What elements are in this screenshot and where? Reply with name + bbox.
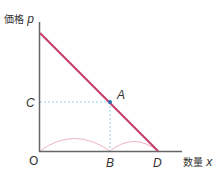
x-axis-label-text: 数量	[183, 157, 203, 168]
label-c: C	[26, 97, 35, 109]
demand-line	[40, 33, 158, 151]
diagram-canvas	[0, 0, 218, 179]
y-axis-var: p	[27, 12, 34, 26]
label-origin: O	[29, 155, 38, 167]
label-a: A	[117, 89, 125, 101]
y-axis-label-text: 価格	[4, 14, 24, 25]
demand-diagram: 価格 p 数量 x C A B D O	[0, 0, 218, 179]
label-d: D	[153, 157, 162, 169]
y-axis-label: 価格 p	[4, 13, 34, 25]
point-a-marker	[108, 100, 112, 104]
label-b: B	[106, 157, 114, 169]
x-axis-label: 数量 x	[183, 156, 212, 168]
x-axis-var: x	[206, 155, 212, 169]
arc-ob	[40, 139, 110, 152]
